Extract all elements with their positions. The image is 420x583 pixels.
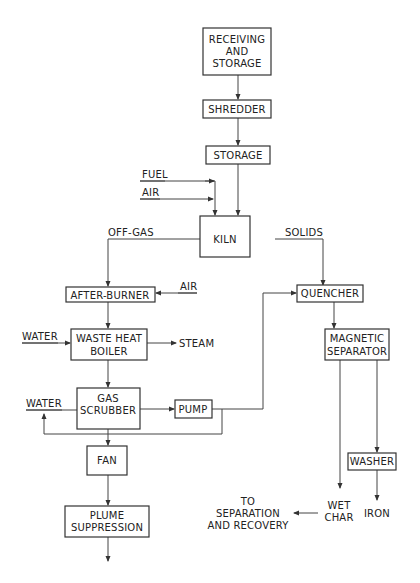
- node-magnetic-separator: MAGNETIC SEPARATOR: [325, 329, 389, 360]
- quencher-label: QUENCHER: [301, 288, 359, 299]
- fan-label: FAN: [97, 455, 117, 466]
- and-recovery-label: AND RECOVERY: [207, 520, 289, 531]
- receiving-label: RECEIVING: [209, 34, 265, 45]
- fuel-label: FUEL: [142, 169, 168, 180]
- node-shredder: SHREDDER: [203, 100, 271, 118]
- node-pump: PUMP: [175, 400, 212, 418]
- storage-label: STORAGE: [212, 58, 261, 69]
- after-burner-label: AFTER-BURNER: [71, 290, 150, 301]
- kiln-label: KILN: [213, 234, 236, 245]
- water-boiler-label: WATER: [22, 331, 58, 342]
- node-receiving-and-storage: RECEIVING AND STORAGE: [203, 28, 271, 75]
- separator-label: SEPARATOR: [327, 346, 387, 357]
- node-washer: WASHER: [348, 453, 396, 470]
- solids-label: SOLIDS: [285, 227, 323, 238]
- boiler-label: BOILER: [90, 346, 128, 357]
- air-afterburner-label: AIR: [180, 281, 197, 292]
- node-gas-scrubber: GAS SCRUBBER: [77, 388, 140, 429]
- steam-label: STEAM: [179, 338, 214, 349]
- process-flow-diagram: RECEIVING AND STORAGE SHREDDER STORAGE K…: [0, 0, 420, 583]
- magnetic-label: MAGNETIC: [330, 333, 384, 344]
- to-label: TO: [240, 496, 255, 507]
- node-fan: FAN: [87, 446, 127, 475]
- node-kiln: KILN: [200, 216, 250, 257]
- storage-label: STORAGE: [213, 150, 262, 161]
- char-label: CHAR: [324, 512, 353, 523]
- washer-label: WASHER: [350, 456, 395, 467]
- pump-label: PUMP: [179, 404, 208, 415]
- connectors: [22, 75, 377, 561]
- node-quencher: QUENCHER: [297, 285, 363, 302]
- waste-heat-label: WASTE HEAT: [76, 333, 143, 344]
- node-storage: STORAGE: [206, 146, 270, 164]
- shredder-label: SHREDDER: [208, 104, 265, 115]
- node-plume-suppression: PLUME SUPPRESSION: [65, 506, 149, 537]
- air-kiln-label: AIR: [142, 187, 159, 198]
- scrubber-label: SCRUBBER: [80, 405, 136, 416]
- node-waste-heat-boiler: WASTE HEAT BOILER: [71, 329, 147, 360]
- separation-label: SEPARATION: [216, 508, 280, 519]
- off-gas-label: OFF-GAS: [108, 227, 154, 238]
- water-scrubber-label: WATER: [26, 398, 62, 409]
- iron-label: IRON: [364, 508, 390, 519]
- node-after-burner: AFTER-BURNER: [66, 287, 155, 302]
- gas-label: GAS: [97, 393, 119, 404]
- wet-label: WET: [328, 500, 352, 511]
- suppression-label: SUPPRESSION: [71, 522, 143, 533]
- and-label: AND: [226, 46, 249, 57]
- plume-label: PLUME: [90, 510, 124, 521]
